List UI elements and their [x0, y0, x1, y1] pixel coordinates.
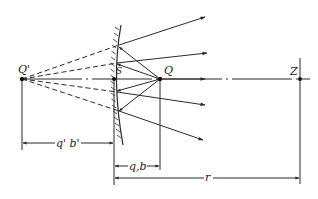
label-dim-qb: q,b: [129, 161, 147, 172]
label-dim-r: r: [205, 172, 210, 183]
point-vertex: [112, 77, 116, 81]
point-z: [298, 77, 302, 81]
label-dim-qb-prime: q' b': [56, 138, 80, 149]
label-q-prime: Q': [18, 64, 30, 75]
virtual-rays: [22, 45, 119, 111]
convex-mirror: [116, 25, 123, 145]
mirror-diagram: [0, 0, 318, 199]
point-q-prime: [20, 77, 24, 81]
label-s: S: [116, 67, 122, 76]
point-q: [158, 77, 162, 81]
label-z: Z: [290, 66, 298, 77]
label-q: Q: [164, 65, 173, 76]
